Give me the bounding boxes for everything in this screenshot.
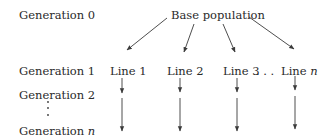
- arrow-root-to-line-2: [184, 24, 194, 52]
- arrow-root-to-line-n: [249, 17, 294, 49]
- vertical-ellipsis: [47, 101, 49, 116]
- arrow-root-to-line-1: [127, 18, 167, 50]
- arrow-root-to-line-3: [223, 24, 235, 52]
- diagram-arrows: [0, 0, 324, 139]
